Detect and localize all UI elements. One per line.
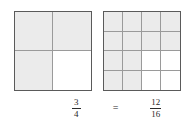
model-b-cell-2: [123, 12, 142, 32]
model-b-cell-15: [142, 71, 161, 91]
model-b-cell-3: [142, 12, 161, 32]
model-b-cell-11: [142, 51, 161, 71]
model-b-cell-5: [104, 32, 123, 52]
left-fraction-denominator: 4: [73, 109, 80, 119]
equivalent-fractions-figure: 3 4 = 12 16: [0, 0, 189, 124]
model-b-cell-9: [104, 51, 123, 71]
fraction-model-three-fourths: [14, 11, 92, 91]
fraction-twelve-sixteenths: 12 16: [150, 98, 161, 119]
model-b-cell-7: [142, 32, 161, 52]
model-b-cell-14: [123, 71, 142, 91]
right-fraction-denominator: 16: [150, 109, 161, 119]
equals-sign: =: [113, 103, 119, 113]
model-b-cell-12: [161, 51, 180, 71]
model-a-cell-3: [15, 51, 53, 90]
fraction-equation: 3 4 = 12 16: [0, 94, 189, 122]
left-fraction-numerator: 3: [73, 98, 80, 108]
model-b-cell-4: [161, 12, 180, 32]
fraction-model-twelve-sixteenths: [103, 11, 181, 91]
fraction-three-fourths: 3 4: [72, 98, 81, 119]
model-b-cell-8: [161, 32, 180, 52]
model-b-cell-10: [123, 51, 142, 71]
model-b-cell-6: [123, 32, 142, 52]
model-b-cell-13: [104, 71, 123, 91]
model-b-cell-16: [161, 71, 180, 91]
model-a-cell-1: [15, 12, 53, 51]
model-b-cell-1: [104, 12, 123, 32]
model-a-cell-2: [53, 12, 91, 51]
model-a-cell-4: [53, 51, 91, 90]
right-fraction-numerator: 12: [150, 98, 161, 108]
